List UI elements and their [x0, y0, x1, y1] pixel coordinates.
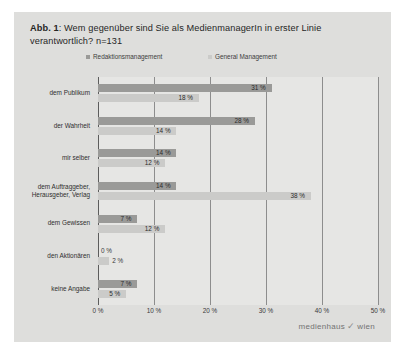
bar-value-label: 7 % — [120, 215, 131, 223]
logo-text-left: medienhaus — [298, 322, 345, 331]
legend-label: Redaktionsmanagement — [93, 53, 162, 60]
figure-title-text: : Wem gegenüber sind Sie als Medienmanag… — [30, 23, 321, 46]
chart-legend: Redaktionsmanagement General Management — [86, 53, 386, 65]
x-tick-label: 50 % — [371, 307, 386, 314]
bar[interactable] — [98, 84, 272, 92]
legend-item-general-management[interactable]: General Management — [208, 53, 277, 60]
check-icon: ✓ — [347, 321, 355, 331]
category-label-line: mir selber — [62, 154, 90, 162]
category-axis: dem Publikumder Wahrheitmir selberdem Au… — [14, 77, 94, 305]
x-tick-label: 30 % — [259, 307, 274, 314]
bar-group: 14 %38 % — [98, 182, 378, 200]
category-label: mir selber — [62, 154, 90, 162]
logo-text-right: wien — [357, 322, 375, 331]
category-label: dem Publikum — [50, 89, 91, 97]
category-label: dem Auftraggeber,Herausgeber, Verlag — [32, 183, 90, 200]
bar-group: 7 %5 % — [98, 280, 378, 298]
x-axis-ticks: 0 %10 %20 %30 %40 %50 % — [98, 307, 398, 319]
legend-swatch-icon — [208, 55, 212, 59]
category-label: keine Angabe — [51, 285, 90, 293]
category-label-line: dem Gewissen — [48, 219, 90, 227]
x-tick-label: 40 % — [315, 307, 330, 314]
plot-area: 31 %18 %28 %14 %14 %12 %14 %38 %7 %12 %0… — [98, 77, 378, 305]
bar-group: 28 %14 % — [98, 117, 378, 135]
category-label: dem Gewissen — [48, 219, 90, 227]
bar-value-label: 0 % — [101, 247, 112, 255]
bar-group: 7 %12 % — [98, 215, 378, 233]
bar-value-label: 14 % — [156, 127, 171, 135]
bar-value-label: 18 % — [178, 94, 193, 102]
bar-value-label: 38 % — [290, 192, 305, 200]
page-title: Abb. 1: Wem gegenüber sind Sie als Medie… — [30, 22, 378, 47]
bar-value-label: 2 % — [112, 257, 123, 265]
bar-value-label: 12 % — [145, 225, 160, 233]
category-label-line: der Wahrheit — [54, 122, 90, 130]
legend-item-redaktionsmanagement[interactable]: Redaktionsmanagement — [86, 53, 162, 60]
brand-logo: medienhaus✓wien — [298, 321, 375, 331]
figure-card: Abb. 1: Wem gegenüber sind Sie als Medie… — [14, 12, 391, 342]
bar-value-label: 5 % — [109, 290, 120, 298]
legend-swatch-icon — [86, 55, 90, 59]
x-tick-label: 0 % — [92, 307, 103, 314]
category-label-line: dem Auftraggeber, — [32, 183, 90, 191]
category-label: den Aktionären — [47, 252, 90, 260]
legend-label: General Management — [215, 53, 277, 60]
bar-value-label: 7 % — [120, 280, 131, 288]
bar-group: 0 %2 % — [98, 247, 378, 265]
bar-value-label: 12 % — [145, 159, 160, 167]
bar-value-label: 31 % — [251, 84, 266, 92]
x-tick-label: 10 % — [147, 307, 162, 314]
bar-value-label: 14 % — [156, 182, 171, 190]
category-label-line: Herausgeber, Verlag — [32, 191, 90, 199]
category-label-line: keine Angabe — [51, 285, 90, 293]
gridline — [378, 77, 379, 305]
bar-value-label: 28 % — [234, 117, 249, 125]
category-label-line: dem Publikum — [50, 89, 91, 97]
bar[interactable] — [98, 117, 255, 125]
bar-value-label: 14 % — [156, 149, 171, 157]
bar[interactable] — [98, 257, 109, 265]
figure-label: Abb. 1 — [30, 23, 59, 33]
bar-group: 31 %18 % — [98, 84, 378, 102]
bar[interactable] — [98, 192, 311, 200]
x-tick-label: 20 % — [203, 307, 218, 314]
category-label-line: den Aktionären — [47, 252, 90, 260]
bar-group: 14 %12 % — [98, 149, 378, 167]
bar-rows: 31 %18 %28 %14 %14 %12 %14 %38 %7 %12 %0… — [98, 77, 378, 305]
category-label: der Wahrheit — [54, 122, 90, 130]
